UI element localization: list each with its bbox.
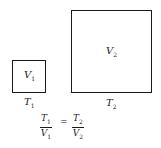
small-box-temp-label: T1 [24,97,35,111]
sub: 2 [113,103,117,110]
sub: 2 [79,118,83,125]
denominator: V2 [72,128,84,142]
left-fraction: T1 V1 [40,113,52,142]
sub: 1 [31,75,35,82]
large-box-volume-label: V2 [106,46,117,60]
sub: 1 [31,102,35,109]
var: T [24,96,31,107]
sub: 2 [113,51,117,58]
sub: 2 [79,133,83,140]
numerator: T2 [72,113,84,128]
sub: 1 [47,118,51,125]
right-fraction: T2 V2 [72,113,84,142]
denominator: V1 [40,128,52,142]
sub: 1 [47,133,51,140]
var: T [106,97,113,108]
equals-sign: = [60,117,68,127]
small-box-volume-label: V1 [24,70,35,84]
numerator: T1 [40,113,52,128]
large-box-temp-label: T2 [106,98,117,112]
